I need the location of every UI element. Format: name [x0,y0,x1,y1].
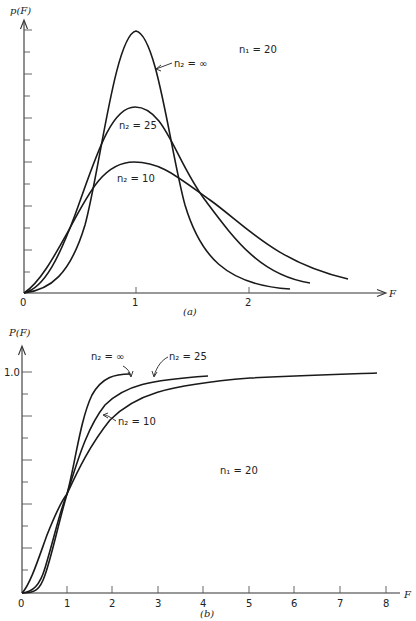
chart-b-curve-n2-10 [22,373,377,593]
chart-a-label-n2-25: n₂ = 25 [119,120,157,131]
figure-canvas: 0 1 2 p(F) F (a) n₂ = ∞ n₂ = 25 n₂ = 10 … [0,0,416,621]
chart-b-x-label: F [403,589,412,600]
chart-a-leader-n2-inf [156,63,172,69]
chart-b-y-tick-label-1: 1.0 [4,367,20,378]
chart-a-y-ticks [24,30,32,272]
chart-b-label-n1: n₁ = 20 [220,465,258,476]
chart-a-label-n2-inf: n₂ = ∞ [174,58,207,69]
chart-b-label-n2-inf: n₂ = ∞ [91,351,124,362]
chart-b-caption: (b) [200,608,214,619]
chart-a-x-tick-label-2: 2 [245,297,251,308]
chart-a-x-tick-label-0: 0 [20,297,26,308]
chart-b-x-tick-label-1: 1 [64,598,70,609]
chart-a-label-n2-10: n₂ = 10 [117,173,155,184]
chart-b-x-tick-label-6: 6 [291,598,297,609]
chart-b-x-ticks [67,586,386,593]
chart-b-x-tick-label-3: 3 [155,598,161,609]
chart-b-y-label: P(F) [8,327,31,338]
chart-b-x-tick-label-0: 0 [18,598,24,609]
chart-a: 0 1 2 p(F) F (a) n₂ = ∞ n₂ = 25 n₂ = 10 … [10,5,397,317]
chart-a-x-tick-label-1: 1 [132,297,138,308]
chart-b-x-tick-label-2: 2 [109,598,115,609]
chart-b-y-ticks [22,372,32,570]
chart-a-caption: (a) [183,306,197,317]
chart-a-curve-n2-10 [24,162,348,293]
chart-b-x-tick-label-8: 8 [383,598,389,609]
chart-b: 0 1 2 3 4 5 6 7 8 1.0 P(F) F (b) n₂ = ∞ … [4,327,412,619]
chart-a-label-n1: n₁ = 20 [239,44,277,55]
chart-b-x-tick-label-5: 5 [246,598,252,609]
chart-b-label-n2-10: n₂ = 10 [118,416,156,427]
chart-b-label-n2-25: n₂ = 25 [169,351,207,362]
chart-b-x-tick-label-7: 7 [337,598,343,609]
chart-a-x-label: F [388,288,397,299]
chart-a-y-label: p(F) [10,5,31,16]
